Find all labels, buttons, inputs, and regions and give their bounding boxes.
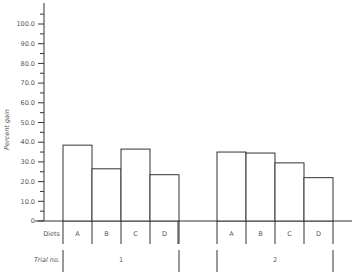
category-label: A [229, 230, 234, 238]
bar [121, 149, 150, 221]
y-axis-label: Percent gain [3, 109, 11, 150]
bar [217, 152, 246, 221]
category-label: D [316, 230, 321, 238]
bar [63, 145, 92, 221]
bar [246, 153, 275, 221]
y-tick-label: 20.0 [21, 178, 35, 186]
category-label: C [133, 230, 138, 238]
y-tick-label: 50.0 [21, 119, 35, 127]
y-tick-label: 40.0 [21, 138, 35, 146]
bars [63, 145, 333, 221]
bar [275, 163, 304, 221]
bar [92, 169, 121, 221]
y-tick-label: 30.0 [21, 158, 35, 166]
y-tick-label: 70.0 [21, 79, 35, 87]
category-label: B [258, 230, 262, 238]
x-axis-rows: ABCD1ABCD2DietsTrial no. [34, 221, 333, 272]
category-label: A [75, 230, 80, 238]
category-label: D [162, 230, 167, 238]
category-label: C [287, 230, 292, 238]
y-tick-label: 10.0 [21, 198, 35, 206]
y-tick-label: 90.0 [21, 40, 35, 48]
y-tick-label: 60.0 [21, 99, 35, 107]
y-tick-label: 0 [31, 217, 35, 225]
y-tick-label: 80.0 [21, 60, 35, 68]
diets-row-label: Diets [43, 230, 60, 238]
trial-label: 2 [273, 256, 277, 264]
bar [304, 178, 333, 221]
category-label: B [104, 230, 108, 238]
bar-chart: 010.020.030.040.050.060.070.080.090.0100… [0, 0, 352, 277]
bar [150, 175, 179, 221]
trial-row-label: Trial no. [34, 256, 60, 264]
y-tick-label: 100.0 [16, 20, 35, 28]
trial-label: 1 [119, 256, 123, 264]
